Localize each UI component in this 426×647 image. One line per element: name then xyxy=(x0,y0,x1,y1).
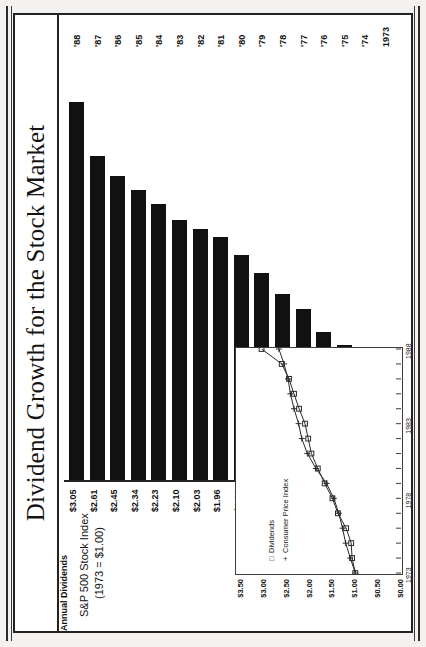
inset-series-svg xyxy=(235,347,403,575)
bar-rect xyxy=(151,204,166,481)
category-tick-label: '78 xyxy=(278,35,288,47)
inset-x-tick-label: 1978 xyxy=(405,493,412,509)
bar-value-label: $2.34 xyxy=(130,489,140,512)
plus-marker xyxy=(276,347,282,352)
scanned-chart-page: Dividend Growth for the Stock Market S&P… xyxy=(0,0,426,647)
bar-rect xyxy=(69,102,84,481)
legend-item-1: □Dividends xyxy=(267,520,276,561)
bar-chart-area: S&P 500 Stock Index (1973 = $1.00) Annua… xyxy=(59,13,413,631)
category-tick-label: '82 xyxy=(196,35,206,47)
bar-value-label: $2.45 xyxy=(109,489,119,512)
plus-marker: + xyxy=(281,553,290,561)
category-tick-label: '77 xyxy=(299,35,309,47)
legend-label: Dividends xyxy=(267,520,276,553)
category-tick-label: '74 xyxy=(360,35,370,47)
category-tick-label: '79 xyxy=(257,35,267,47)
bar-rect xyxy=(172,220,187,481)
rotated-figure-wrapper: Dividend Growth for the Stock Market S&P… xyxy=(13,13,413,633)
inset-y-tick-label: $1.00 xyxy=(350,579,359,611)
inset-y-tick-label: $2.50 xyxy=(282,579,291,611)
plot-frame: S&P 500 Stock Index (1973 = $1.00) Annua… xyxy=(59,13,413,633)
bar-row: $2.34 xyxy=(131,190,146,481)
category-tick-label: 1973 xyxy=(381,27,391,47)
category-tick-label: '76 xyxy=(319,35,329,47)
bar-rect xyxy=(90,156,105,481)
bar-rect xyxy=(193,229,208,481)
inset-y-tick-label: $3.50 xyxy=(236,579,245,611)
legend-label: Consumer Price Index xyxy=(281,479,290,553)
category-tick-label: '75 xyxy=(340,35,350,47)
category-tick-label: '83 xyxy=(175,35,185,47)
bar-value-label: $2.10 xyxy=(171,489,181,512)
square-marker: □ xyxy=(267,553,276,561)
bar-value-label: $2.03 xyxy=(192,489,202,512)
category-tick-label: '87 xyxy=(93,35,103,47)
plus-marker xyxy=(291,406,297,412)
bar-value-label: $2.23 xyxy=(150,489,160,512)
inset-line-chart: $0.00$0.50$1.00$1.50$2.00$2.50$3.00$3.50… xyxy=(235,347,403,575)
annual-dividends-axis-label: Annual Dividends xyxy=(59,13,69,631)
bar-row: $1.96 xyxy=(213,237,228,481)
page-title: Dividend Growth for the Stock Market xyxy=(22,125,50,522)
inset-y-tick-label: $3.00 xyxy=(259,579,268,611)
bar-row: $2.03 xyxy=(193,229,208,481)
inset-y-tick-label: $1.50 xyxy=(327,579,336,611)
inset-x-tick-label: 1983 xyxy=(405,418,412,434)
bar-row: $2.45 xyxy=(110,176,125,481)
bar-rect xyxy=(213,237,228,481)
inset-x-tick-label: 1988 xyxy=(405,343,412,359)
category-tick-label: '80 xyxy=(237,35,247,47)
bar-value-label: $3.05 xyxy=(68,489,78,512)
bar-row: $2.10 xyxy=(172,220,187,481)
plus-marker xyxy=(343,540,349,546)
bar-row: $3.05 xyxy=(69,102,84,481)
plus-marker xyxy=(296,421,302,427)
inset-x-tick-label: 1973 xyxy=(405,567,412,583)
bar-rect xyxy=(110,176,125,481)
inset-y-tick-label: $2.00 xyxy=(305,579,314,611)
bar-row: $2.23 xyxy=(151,204,166,481)
category-tick-label: '88 xyxy=(72,35,82,47)
bar-rect xyxy=(131,190,146,481)
legend-item-2: +Consumer Price Index xyxy=(281,479,290,561)
figure-landscape-canvas: Dividend Growth for the Stock Market S&P… xyxy=(13,13,413,633)
chart-title-band: Dividend Growth for the Stock Market xyxy=(13,13,59,633)
plus-marker xyxy=(299,436,305,442)
category-tick-label: '84 xyxy=(154,35,164,47)
category-tick-label: '86 xyxy=(113,35,123,47)
inset-y-tick-label: $0.00 xyxy=(396,579,405,611)
bar-value-label: $2.61 xyxy=(89,489,99,512)
category-tick-label: '81 xyxy=(216,35,226,47)
category-tick-label: '85 xyxy=(134,35,144,47)
bar-row: $2.61 xyxy=(90,156,105,481)
inset-y-tick-label: $0.50 xyxy=(373,579,382,611)
bar-value-label: $1.96 xyxy=(212,489,222,512)
